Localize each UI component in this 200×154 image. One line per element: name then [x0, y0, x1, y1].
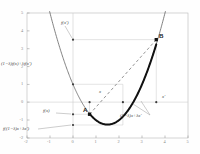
- y-tick-label-4: 4: [21, 29, 23, 33]
- x-tick-label-0: -2: [24, 140, 28, 144]
- x-tick-label-6: 4: [164, 140, 166, 144]
- annotation-convex-combination-of-points: (1−λ)x+λx′: [120, 114, 142, 119]
- x-tick-label-7: 5: [187, 140, 189, 144]
- x-tick-label-4: 2: [118, 140, 120, 144]
- x-tick-label-2: 0: [72, 140, 74, 144]
- annotation-x-prime-point: x′: [162, 95, 165, 100]
- point-label-b: B: [159, 33, 163, 39]
- y-tick-label-1: 1: [21, 82, 23, 86]
- plot-frame: [27, 13, 188, 138]
- convexity-figure: -2 -1 0 1 2 3 4 5 5 4 3 2 1 0 -1 -2 f(x′…: [0, 0, 200, 154]
- annotation-f-of-convex-combination: f((1−λ)x+λx′): [3, 127, 29, 132]
- y-tick-label-0: 0: [21, 100, 23, 104]
- y-tick-label-5: 5: [21, 11, 23, 15]
- annotation-x-point: x: [99, 90, 101, 95]
- annotation-f-xprime: f(x′): [61, 21, 69, 26]
- point-label-a: A: [83, 107, 87, 113]
- x-tick-label-1: -1: [47, 140, 51, 144]
- x-tick-label-5: 3: [141, 140, 143, 144]
- y-tick-label-3: 3: [21, 47, 23, 51]
- y-tick-label-neg1: -1: [20, 118, 24, 122]
- annotation-convex-combination-of-values: (1−λ)f(x)+λf(x′): [1, 62, 32, 67]
- annotation-f-x: f(x): [43, 109, 50, 114]
- y-tick-label-neg2: -2: [20, 136, 24, 140]
- chart-canvas: [0, 0, 200, 154]
- x-tick-label-3: 1: [95, 140, 97, 144]
